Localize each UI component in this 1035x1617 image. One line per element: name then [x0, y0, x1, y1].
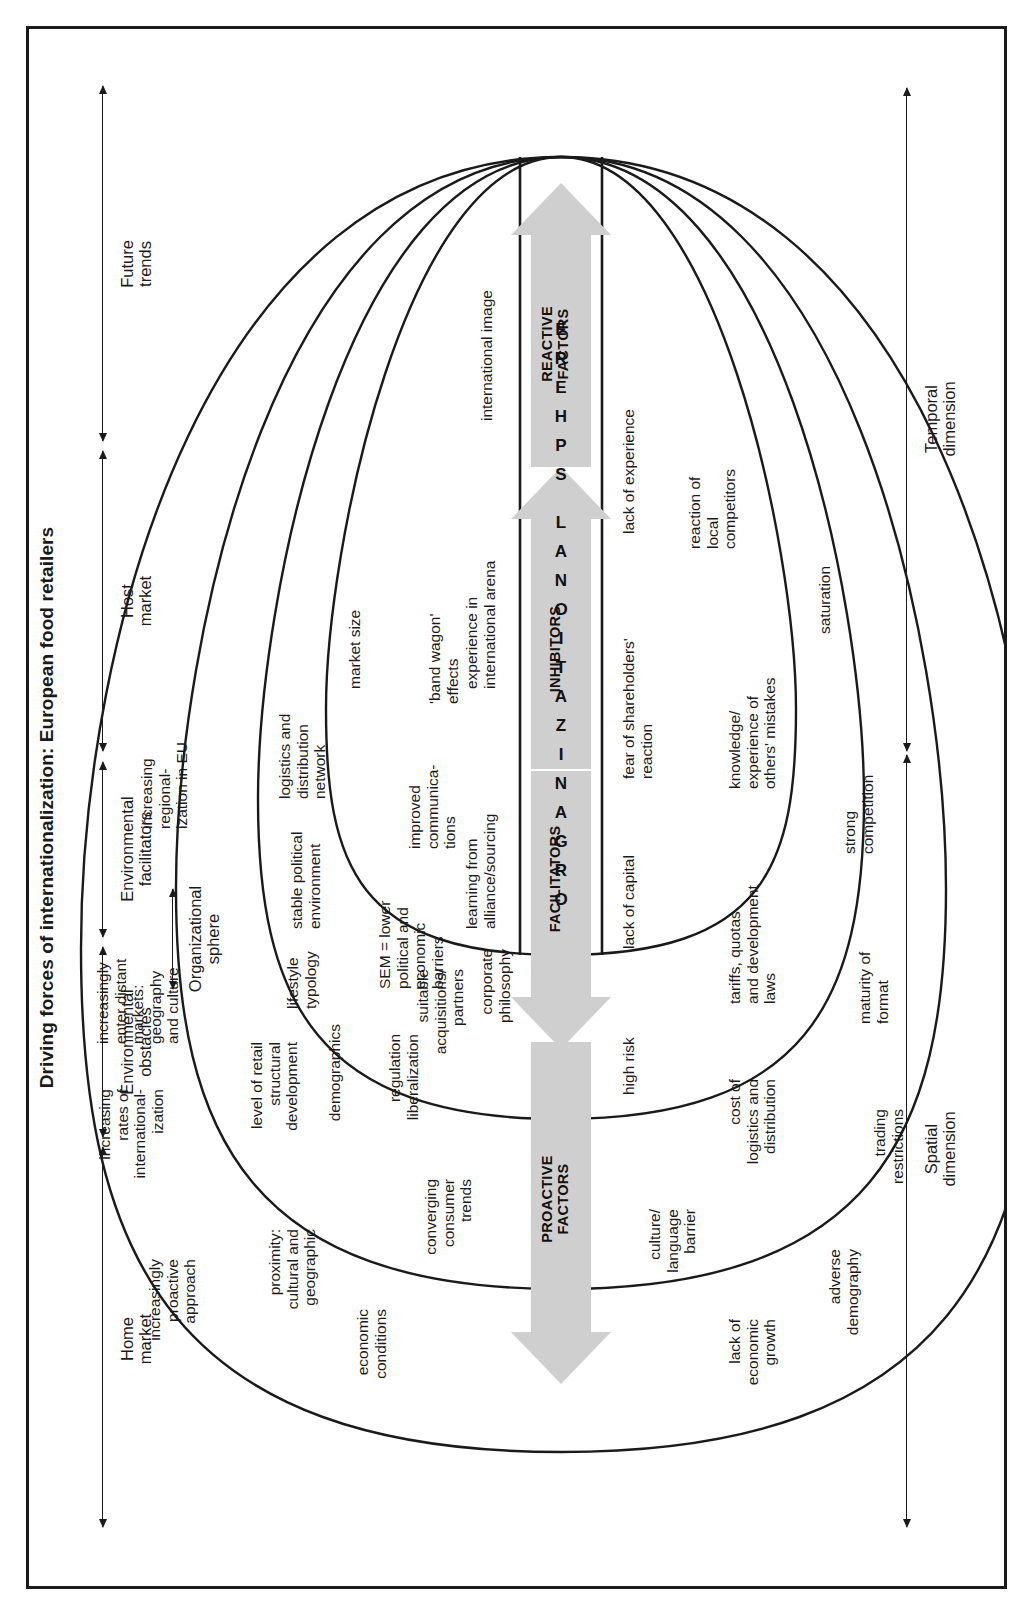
ruler-home-market [102, 1147, 103, 1527]
org-letter: G [551, 832, 571, 852]
org-letter: I [551, 745, 571, 765]
label-env-obstacles-5: reaction of local competitors [686, 389, 739, 549]
org-letter: R [551, 349, 571, 369]
org-letter: E [551, 378, 571, 398]
ruler-environmental-facilitators [102, 762, 103, 937]
label-env-facilitators-3: suitable acquisitions/ partners [414, 969, 467, 1149]
label-env-obstacles-2: cost of logistics and distribution [726, 1079, 779, 1259]
label-host-market-8: market size [346, 539, 364, 689]
label-org-facilitators-4: international image [478, 241, 496, 421]
org-letter: S [551, 465, 571, 485]
org-letter: A [551, 687, 571, 707]
ruler-label-future-trends: Future trends [118, 164, 155, 364]
label-org-facilitators-3: experience in international arena [463, 439, 498, 689]
ruler-label-host-market: Host market [118, 501, 155, 701]
axis-temporal-dimension [906, 88, 907, 751]
org-letter: P [551, 436, 571, 456]
label-host-market-1: economic conditions [354, 1309, 389, 1469]
org-letter: Z [551, 716, 571, 736]
label-env-obstacles-3: tariffs, quotas and development laws [726, 809, 779, 1004]
label-org-obstacles-4: lack of experience [620, 314, 638, 534]
ruler-label-organizational-sphere: Organizational sphere [186, 839, 223, 1039]
ruler-future-trends [102, 86, 103, 441]
label-home-market-3: trading restrictions [871, 1109, 906, 1289]
label-env-obstacles-4: knowledge/ experience of others' mistake… [726, 599, 779, 789]
figure-border: Driving forces of internationalization: … [26, 26, 1007, 1589]
ruler-label-environmental-obstacles: Environmental obstacles [118, 942, 155, 1142]
label-home-market-2: adverse demography [826, 1249, 861, 1424]
ruler-label-home-market: Home market [118, 1239, 155, 1439]
org-letter: N [551, 774, 571, 794]
diagram-stage: Driving forces of internationalization: … [26, 26, 1007, 1589]
label-env-facilitators-4: SEM = lower political and economic barri… [376, 829, 446, 989]
label-host-market-7: logistics and distribution network [276, 639, 329, 799]
label-home-market-5: strong competition [841, 684, 876, 854]
org-letter: I [551, 629, 571, 649]
org-letter: H [551, 407, 571, 427]
label-home-market-4: maturity of format [856, 854, 891, 1024]
label-host-market-4: demographics [326, 1024, 344, 1189]
label-org-facilitators-2: learning from alliance/sourcing [463, 699, 498, 929]
label-env-facilitators-6: 'band wagon' effects [426, 544, 461, 704]
org-letter: N [551, 571, 571, 591]
label-home-market-1: lack of economic growth [726, 1319, 779, 1489]
label-env-facilitators-1: converging consumer trends [422, 1179, 475, 1349]
axis-spatial-dimension [906, 755, 907, 1527]
label-env-facilitators-5: improved communica- tions [406, 699, 459, 849]
label-home-market-6: saturation [816, 474, 834, 634]
ruler-label-environmental-facilitators: Environmental facilitators [118, 749, 155, 949]
org-letter: O [551, 600, 571, 620]
ruler-environmental-obstacles [102, 947, 103, 1137]
ruler-organizational-sphere [172, 889, 173, 989]
org-letter: A [551, 542, 571, 562]
label-org-obstacles-2: lack of capital [620, 759, 638, 949]
label-org-obstacles-3: fear of shareholders' reaction [620, 529, 655, 779]
ruler-host-market [102, 451, 103, 751]
org-letter: O [551, 890, 571, 910]
org-letter: E [551, 320, 571, 340]
org-letter: L [551, 513, 571, 533]
label-org-obstacles-1: high risk [620, 925, 638, 1095]
org-letter: A [551, 803, 571, 823]
label-host-market-2: proximity: cultural and geographic [266, 1229, 319, 1399]
label-org-facilitators-1: corporate philosophy [478, 949, 513, 1099]
label-env-obstacles-1: culture/ language barrier [646, 1209, 699, 1389]
org-letter: R [551, 861, 571, 881]
label-host-market-3: level of retail structural development [248, 1042, 301, 1217]
figure-page: Driving forces of internationalization: … [0, 0, 1035, 1617]
axis-label-spatial-dimension: Spatial dimension [922, 1039, 959, 1259]
org-letter: T [551, 658, 571, 678]
axis-label-temporal-dimension: Temporal dimension [922, 309, 959, 529]
